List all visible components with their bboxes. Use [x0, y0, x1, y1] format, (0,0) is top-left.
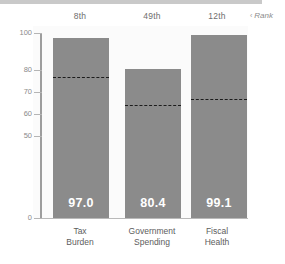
category-label-line-2: Burden: [41, 237, 119, 248]
category-label-tax-burden: Tax Burden: [41, 226, 119, 247]
category-label-line-1: Fiscal: [178, 226, 256, 237]
bar-value-fiscal-health: 99.1: [191, 197, 247, 210]
bar-value-tax-burden: 97.0: [53, 197, 109, 210]
y-tick-label-0: 0: [8, 214, 32, 222]
y-axis-line: [40, 33, 42, 219]
x-axis-line: [40, 218, 248, 219]
reference-line-government-spending: [125, 105, 181, 106]
y-tick-label-60: 60: [8, 110, 32, 118]
reference-line-fiscal-health: [191, 99, 247, 100]
reference-line-tax-burden: [53, 77, 109, 78]
y-tick-80: [34, 70, 42, 71]
y-tick-label-50: 50: [8, 132, 32, 140]
y-tick-70: [34, 92, 42, 93]
bar-chart: 100 80 70 60 50 0 97.0 80.4 99.1 Tax Bur…: [0, 0, 285, 264]
y-tick-label-100: 100: [8, 29, 32, 37]
bar-tax-burden[interactable]: [53, 38, 109, 218]
bar-fiscal-health[interactable]: [191, 35, 247, 218]
y-tick-label-80: 80: [8, 66, 32, 74]
y-tick-100: [34, 33, 42, 34]
y-tick-0: [34, 218, 42, 219]
y-tick-label-70: 70: [8, 88, 32, 96]
y-tick-60: [34, 114, 42, 115]
category-label-line-1: Tax: [41, 226, 119, 237]
category-label-line-2: Health: [178, 237, 256, 248]
bar-value-government-spending: 80.4: [125, 197, 181, 210]
y-tick-50: [34, 136, 42, 137]
category-label-fiscal-health: Fiscal Health: [178, 226, 256, 247]
